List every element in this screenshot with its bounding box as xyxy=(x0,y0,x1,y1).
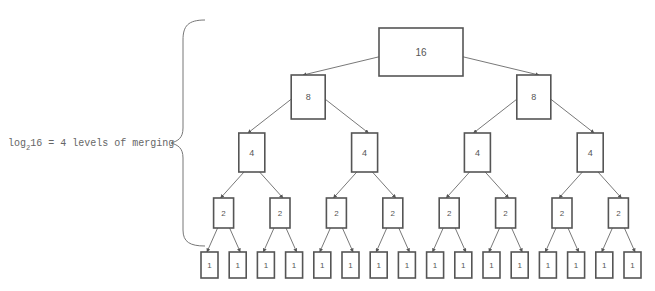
tree-node: 1 xyxy=(398,252,415,278)
node-value: 1 xyxy=(264,261,269,270)
tree-edge-arrow xyxy=(559,172,582,198)
tree-edge-arrow xyxy=(568,228,579,252)
curly-brace-icon xyxy=(171,20,205,246)
node-value: 8 xyxy=(531,92,536,102)
node-value: 2 xyxy=(278,209,283,218)
tree-edge-arrow xyxy=(325,99,368,133)
node-value: 1 xyxy=(292,261,297,270)
node-value: 1 xyxy=(235,261,240,270)
node-value: 1 xyxy=(405,261,410,270)
tree-edge-arrow xyxy=(463,57,539,75)
tree-edge-arrow xyxy=(230,228,241,252)
node-value: 1 xyxy=(574,261,579,270)
tree-edge-arrow xyxy=(342,228,353,252)
tree-node: 1 xyxy=(511,252,528,278)
node-value: 1 xyxy=(489,261,494,270)
tree-edge-arrow xyxy=(333,172,356,198)
tree-edge-arrow xyxy=(602,228,613,252)
node-value: 2 xyxy=(503,209,508,218)
tree-node: 1 xyxy=(286,252,303,278)
tree-edge-arrow xyxy=(433,228,444,252)
node-value: 1 xyxy=(207,261,212,270)
tree-edge-arrow xyxy=(455,228,466,252)
tree-edge-arrow xyxy=(320,228,331,252)
node-value: 1 xyxy=(517,261,522,270)
tree-node: 1 xyxy=(427,252,444,278)
tree-edge-arrow xyxy=(399,228,410,252)
tree-node: 1 xyxy=(455,252,472,278)
node-value: 1 xyxy=(433,261,438,270)
tree-node: 2 xyxy=(439,198,459,228)
node-value: 8 xyxy=(306,92,311,102)
tree-edge-arrow xyxy=(624,228,635,252)
tree-edge-arrow xyxy=(286,228,297,252)
tree-edge-arrow xyxy=(221,172,244,198)
node-value: 4 xyxy=(362,148,367,158)
node-value: 1 xyxy=(320,261,325,270)
tree-edge-arrow xyxy=(474,99,517,133)
tree-node: 2 xyxy=(270,198,290,228)
node-value: 4 xyxy=(588,148,593,158)
node-value: 1 xyxy=(602,261,607,270)
node-value: 1 xyxy=(376,261,381,270)
tree-node: 1 xyxy=(568,252,585,278)
tree-node: 1 xyxy=(539,252,556,278)
tree-edge-arrow xyxy=(598,172,621,198)
levels-annotation: log216 = 4 levels of merging xyxy=(8,138,174,152)
tree-edge-arrow xyxy=(485,172,508,198)
tree-node: 1 xyxy=(314,252,331,278)
tree-node: 2 xyxy=(383,198,403,228)
tree-edge-arrow xyxy=(303,57,379,75)
tree-edge-arrow xyxy=(551,99,594,133)
node-value: 4 xyxy=(249,148,254,158)
tree-edge-arrow xyxy=(512,228,523,252)
tree-edge-arrow xyxy=(489,228,500,252)
tree-node: 2 xyxy=(326,198,346,228)
node-value: 16 xyxy=(415,47,427,58)
node-value: 2 xyxy=(616,209,621,218)
tree-node: 1 xyxy=(257,252,274,278)
tree-node: 1 xyxy=(370,252,387,278)
tree-node: 1 xyxy=(483,252,500,278)
node-value: 4 xyxy=(475,148,480,158)
tree-node: 16 xyxy=(379,28,463,76)
node-value: 2 xyxy=(221,209,226,218)
tree-node: 4 xyxy=(239,133,265,172)
node-value: 2 xyxy=(391,209,396,218)
tree-node: 1 xyxy=(596,252,613,278)
tree-node: 2 xyxy=(552,198,572,228)
tree-edge-arrow xyxy=(372,172,395,198)
tree-edge-arrow xyxy=(260,172,283,198)
tree-node: 1 xyxy=(342,252,359,278)
tree-edge-arrow xyxy=(446,172,469,198)
tree-node: 2 xyxy=(214,198,234,228)
node-value: 1 xyxy=(348,261,353,270)
tree-node: 1 xyxy=(229,252,246,278)
tree-nodes: 16884444222222221111111111111111 xyxy=(201,28,641,278)
tree-node: 4 xyxy=(352,133,378,172)
node-value: 2 xyxy=(560,209,565,218)
tree-edge-arrow xyxy=(263,228,274,252)
tree-node: 4 xyxy=(577,133,603,172)
tree-node: 2 xyxy=(608,198,628,228)
node-value: 1 xyxy=(630,261,635,270)
tree-node: 1 xyxy=(201,252,218,278)
tree-edge-arrow xyxy=(376,228,387,252)
tree-edge-arrow xyxy=(545,228,556,252)
node-value: 1 xyxy=(546,261,551,270)
tree-node: 1 xyxy=(624,252,641,278)
node-value: 2 xyxy=(334,209,339,218)
node-value: 2 xyxy=(447,209,452,218)
merge-tree-diagram: log216 = 4 levels of merging 16884444222… xyxy=(0,0,655,291)
tree-node: 2 xyxy=(496,198,516,228)
tree-edge-arrow xyxy=(248,99,291,133)
tree-node: 8 xyxy=(517,75,551,119)
tree-edge-arrow xyxy=(207,228,218,252)
levels-brace xyxy=(171,20,205,246)
tree-node: 4 xyxy=(464,133,490,172)
node-value: 1 xyxy=(461,261,466,270)
tree-node: 8 xyxy=(291,75,325,119)
